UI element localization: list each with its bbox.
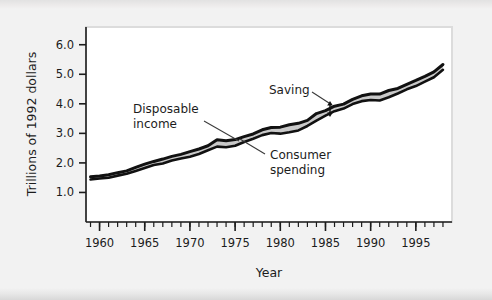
x-tick-label: 1990 [356, 236, 385, 250]
x-tick-label: 1995 [401, 236, 430, 250]
x-axis-tick-labels: 19601965197019751980198519901995 [85, 236, 431, 250]
y-tick-label: 6.0 [56, 38, 74, 52]
chart-figure: 1.02.03.04.05.06.0 196019651970197519801… [0, 0, 492, 300]
x-tick-label: 1970 [175, 236, 204, 250]
y-axis-title: Trillions of 1992 dollars [24, 52, 39, 198]
y-tick-label: 4.0 [56, 97, 74, 111]
y-axis-ticks [79, 45, 86, 193]
x-tick-label: 1975 [220, 236, 249, 250]
annotation-consumer-spending-label-line1: Consumer [270, 148, 331, 162]
chart-canvas: 1.02.03.04.05.06.0 196019651970197519801… [0, 0, 492, 300]
x-tick-label: 1985 [311, 236, 340, 250]
y-tick-label: 1.0 [56, 185, 74, 199]
y-tick-label: 2.0 [56, 156, 74, 170]
x-axis-major-ticks [100, 222, 416, 231]
x-tick-label: 1960 [85, 236, 114, 250]
y-axis-tick-labels: 1.02.03.04.05.06.0 [56, 38, 74, 200]
annotation-disposable-income-label-line2: income [133, 117, 177, 131]
annotation-consumer-spending-label-line2: spending [270, 163, 325, 177]
annotation-saving-label: Saving [269, 83, 310, 97]
annotation-disposable-income-label-line1: Disposable [133, 102, 199, 116]
x-axis-title: Year [255, 265, 283, 280]
x-tick-label: 1965 [130, 236, 159, 250]
x-tick-label: 1980 [266, 236, 295, 250]
y-tick-label: 3.0 [56, 126, 74, 140]
y-tick-label: 5.0 [56, 67, 74, 81]
